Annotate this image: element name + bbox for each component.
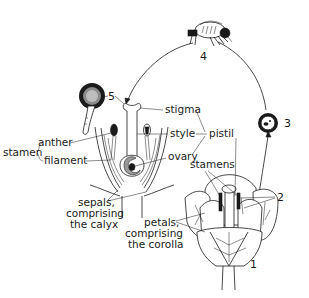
pollination-diagram: 4 3 5 — [0, 0, 309, 298]
step-5-number: 5 — [108, 90, 115, 103]
bee-illustration — [188, 21, 232, 46]
label-stamens: stamens — [190, 158, 235, 170]
step-3-number: 3 — [284, 117, 291, 130]
label-stamen: stamen — [3, 146, 42, 158]
cycle-arrows — [125, 42, 271, 200]
step-4-number: 4 — [200, 50, 207, 63]
flower-exterior — [185, 175, 278, 290]
label-style: style — [170, 127, 195, 139]
label-stigma: stigma — [165, 103, 201, 115]
pollen-grain-3 — [258, 113, 278, 133]
label-pistil: pistil — [209, 127, 234, 139]
label-sepals-line3: the calyx — [70, 218, 118, 230]
step-2-number: 2 — [277, 191, 284, 204]
step-1-number: 1 — [250, 258, 257, 271]
label-anther: anther — [38, 136, 73, 148]
label-petals-line3: the corolla — [128, 238, 184, 250]
label-filament: filament — [44, 154, 87, 166]
germinating-pollen-5 — [79, 83, 105, 134]
